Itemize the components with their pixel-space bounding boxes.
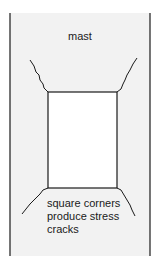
caption-line: square corners (47, 197, 120, 210)
caption-line: cracks (47, 223, 120, 236)
square-opening (48, 92, 117, 188)
stress-crack-caption: square corners produce stress cracks (47, 197, 120, 236)
caption-line: produce stress (47, 210, 120, 223)
mast-label: mast (68, 30, 92, 43)
